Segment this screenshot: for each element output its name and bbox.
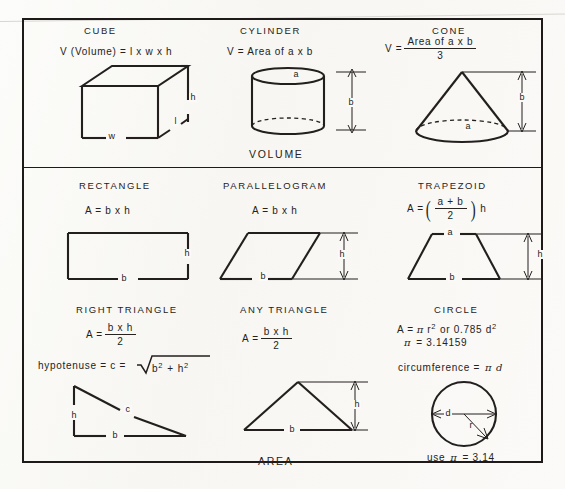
cylinder-label-b: b — [347, 98, 355, 107]
any-triangle-formula: A = b x h 2 — [242, 326, 294, 351]
parallelogram-formula: A = b x h — [252, 205, 298, 216]
hypotenuse-radicand: b2+h2 — [152, 361, 189, 374]
parallelogram-heading: PARALLELOGRAM — [223, 180, 327, 191]
cone-formula-numerator: Area of a x b — [404, 36, 476, 49]
circle-area-prefix: A = — [397, 324, 414, 335]
right-triangle-label-c: c — [124, 405, 132, 414]
pi-value-line: π= 3.14159 — [404, 337, 467, 348]
circle-label-r: r — [468, 421, 474, 430]
pi-value: = 3.14159 — [411, 337, 467, 348]
any-triangle-shape — [236, 378, 376, 440]
trapezoid-formula-numerator: a + b — [435, 196, 467, 209]
rectangle-formula: A = b x h — [85, 205, 131, 216]
cylinder-formula: V = Area of a x b — [227, 46, 313, 57]
cone-formula-fraction: Area of a x b 3 — [404, 36, 476, 61]
cone-formula-lhs: V = — [385, 43, 402, 54]
volume-area-divider — [22, 167, 543, 168]
cylinder-label-a: a — [292, 70, 300, 79]
right-triangle-label-h: h — [70, 411, 78, 420]
area-section-label: AREA — [258, 455, 293, 467]
right-triangle-formula: A = b x h 2 — [86, 322, 138, 347]
rectangle-label-b: b — [120, 274, 128, 283]
right-paren: ) — [470, 199, 475, 219]
circumference-line: circumference =π d — [398, 362, 503, 373]
circle-shape — [408, 380, 528, 452]
any-triangle-label-h: h — [353, 400, 361, 409]
cone-formula-denominator: 3 — [434, 49, 446, 61]
cube-heading: CUBE — [84, 25, 117, 36]
parallelogram-label-h: h — [338, 250, 346, 259]
cube-label-h: h — [189, 93, 197, 102]
use-pi-symbol-icon: π — [445, 452, 462, 463]
rectangle-heading: RECTANGLE — [79, 180, 151, 191]
left-paren: ( — [425, 199, 430, 219]
right-triangle-formula-denominator: 2 — [114, 335, 126, 347]
parallelogram-label-b: b — [259, 272, 267, 281]
trapezoid-label-a: a — [446, 228, 454, 237]
right-triangle-formula-lhs: A = — [86, 329, 103, 340]
circle-label-d: d — [444, 409, 452, 418]
trapezoid-formula-lhs: A = — [407, 203, 424, 214]
any-triangle-label-b: b — [288, 425, 296, 434]
right-triangle-shape — [68, 383, 208, 443]
any-triangle-formula-denominator: 2 — [270, 339, 282, 351]
cone-formula: V = Area of a x b 3 — [385, 36, 478, 61]
any-triangle-formula-lhs: A = — [242, 333, 259, 344]
use-pi-prefix: use — [427, 452, 445, 463]
circumference-value: π d — [480, 362, 503, 373]
trapezoid-label-h: h — [536, 250, 544, 259]
cube-shape — [78, 62, 208, 147]
radicand-plus: + — [163, 363, 178, 374]
radicand-h-exponent: 2 — [184, 361, 189, 370]
trapezoid-shape — [402, 230, 552, 286]
cone-label-b: b — [518, 93, 526, 102]
trapezoid-formula-fraction: a + b 2 — [435, 196, 467, 221]
pi-icon: π — [414, 324, 427, 335]
cube-label-w: w — [107, 132, 117, 141]
any-triangle-formula-numerator: b x h — [261, 326, 292, 339]
right-triangle-formula-numerator: b x h — [105, 322, 136, 335]
cylinder-heading: CYLINDER — [240, 25, 301, 36]
circle-area-d-exponent: 2 — [492, 322, 497, 331]
volume-section-label: VOLUME — [249, 148, 304, 160]
cone-heading: CONE — [432, 25, 466, 36]
trapezoid-formula-denominator: 2 — [444, 209, 456, 221]
cone-shape — [404, 68, 544, 148]
right-triangle-formula-fraction: b x h 2 — [105, 322, 136, 347]
circle-area-mid: or 0.785 d — [436, 324, 492, 335]
rectangle-label-h: h — [183, 249, 191, 258]
rectangle-shape — [66, 231, 196, 286]
any-triangle-heading: ANY TRIANGLE — [240, 304, 329, 315]
cone-label-a: a — [464, 122, 472, 131]
cube-label-l: l — [173, 117, 178, 126]
circle-heading: CIRCLE — [434, 304, 478, 315]
reference-chart-page: CUBE V (Volume) = l x w x h h l w CYLIND… — [0, 0, 565, 489]
circumference-label: circumference = — [398, 362, 480, 373]
circle-area-formula: A =πr2or 0.785 d2 — [397, 322, 497, 335]
use-pi-line: useπ= 3.14 — [427, 452, 495, 463]
hypotenuse-formula-label: hypotenuse = c = — [38, 360, 126, 371]
use-pi-value: = 3.14 — [463, 452, 495, 463]
any-triangle-formula-fraction: b x h 2 — [261, 326, 292, 351]
trapezoid-heading: TRAPEZOID — [418, 180, 487, 191]
right-triangle-label-b: b — [111, 431, 119, 440]
trapezoid-formula-tail: h — [480, 203, 486, 214]
trapezoid-label-b: b — [448, 273, 456, 282]
trapezoid-formula: A = ( a + b 2 ) h — [407, 196, 487, 221]
cube-formula: V (Volume) = l x w x h — [60, 46, 172, 57]
right-triangle-heading: RIGHT TRIANGLE — [76, 304, 178, 315]
